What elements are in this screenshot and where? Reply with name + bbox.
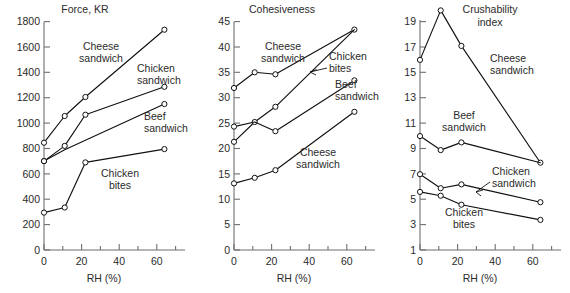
series-label-chicken-bites: Chicken bites <box>101 167 139 191</box>
y-tick-label: 19 <box>404 15 416 27</box>
y-tick-labels: 0 5 10 15 20 25 30 35 40 45 <box>218 15 230 255</box>
series-label-line: Chicken <box>137 62 175 74</box>
y-tick-label: 800 <box>22 142 40 154</box>
y-tick-label: 17 <box>404 41 416 53</box>
x-axis-title: RH (%) <box>87 272 121 284</box>
x-ticks <box>234 244 366 250</box>
x-tick-labels: 0 20 40 60 <box>41 255 163 267</box>
x-ticks <box>44 244 176 250</box>
y-tick-label: 10 <box>218 193 230 205</box>
series-label-line: bites <box>329 62 351 74</box>
x-tick-label: 60 <box>527 255 539 267</box>
series-label-line: bites <box>109 179 131 191</box>
y-tick-label: 600 <box>22 168 40 180</box>
series-label-chicken-sandwich: Chicken sandwich <box>137 62 181 86</box>
series-label-line: Cheese <box>300 146 336 158</box>
y-tick-label: 45 <box>218 15 230 27</box>
series-label-line: Cheese <box>490 52 526 64</box>
series-label-cheese-sandwich-upper: Cheese sandwich <box>261 40 305 64</box>
series-label-line: Chicken <box>101 167 139 179</box>
y-tick-label: 35 <box>218 66 230 78</box>
x-tick-label: 0 <box>417 255 423 267</box>
y-tick-label: 400 <box>22 193 40 205</box>
x-tick-labels: 0 20 40 60 <box>231 255 353 267</box>
series-label-line: sandwich <box>137 74 181 86</box>
series-label-line: Chicken <box>445 206 483 218</box>
series-label-line: sandwich <box>442 121 486 133</box>
y-tick-label: 5 <box>224 218 230 230</box>
y-tick-label: 30 <box>218 91 230 103</box>
x-tick-label: 20 <box>452 255 464 267</box>
series-label-cheese-sandwich: Cheese sandwich <box>79 40 123 64</box>
y-tick-label: 200 <box>22 218 40 230</box>
series-label-line: Beef <box>335 78 357 90</box>
x-axis-title: RH (%) <box>463 272 497 284</box>
chart-title-force: Force, KR <box>61 3 109 15</box>
series-cheese-sandwich <box>417 8 543 165</box>
y-tick-label: 1400 <box>17 66 41 78</box>
y-tick-label: 5 <box>410 193 416 205</box>
series-label-chicken-bites: Chicken bites <box>445 206 483 230</box>
series-label-line: sandwich <box>335 90 379 102</box>
x-tick-label: 40 <box>489 255 501 267</box>
figure-three-panel-line-charts: Force, KR 0 200 400 600 <box>0 0 570 293</box>
y-tick-label: 7 <box>410 168 416 180</box>
series-label-line: Beef <box>144 110 166 122</box>
series-label-chicken-bites: Chicken bites <box>310 50 367 75</box>
chart-title-cohesiveness: Cohesiveness <box>249 3 315 15</box>
y-tick-label: 11 <box>405 117 416 129</box>
x-ticks <box>420 244 552 250</box>
series-label-line: sandwich <box>296 158 340 170</box>
series-beef-sandwich <box>417 134 540 163</box>
chart-crushability: Crushability index 1 3 5 7 <box>380 0 570 293</box>
series-label-chicken-sandwich: Chicken sandwich <box>476 165 536 196</box>
y-tick-label: 15 <box>404 66 416 78</box>
y-tick-label: 1800 <box>17 15 41 27</box>
series-label-cheese-sandwich: Cheese sandwich <box>490 52 534 76</box>
series-label-line: Chicken <box>492 165 530 177</box>
series-label-line: Chicken <box>329 50 367 62</box>
series-chicken-bites <box>41 147 167 216</box>
series-label-line: sandwich <box>261 52 305 64</box>
y-tick-label: 0 <box>34 244 40 256</box>
y-tick-label: 3 <box>410 218 416 230</box>
series-label-line: sandwich <box>492 177 536 189</box>
series-label-beef-sandwich: Beef sandwich <box>144 110 188 134</box>
x-axis-title: RH (%) <box>277 272 311 284</box>
y-tick-label: 13 <box>404 91 416 103</box>
y-tick-labels: 0 200 400 600 800 1000 1200 1400 1600 18… <box>17 15 41 255</box>
x-tick-label: 0 <box>231 255 237 267</box>
x-tick-label: 40 <box>303 255 315 267</box>
chart-title-crushability-line1: Crushability <box>463 3 519 15</box>
chart-force: Force, KR 0 200 400 600 <box>0 0 190 293</box>
y-tick-label: 1000 <box>17 117 41 129</box>
chart-cohesiveness: Cohesiveness 0 5 10 15 20 <box>190 0 380 293</box>
panel-crushability: Crushability index 1 3 5 7 <box>380 0 570 293</box>
series-cheese-sandwich-lower <box>231 109 357 186</box>
y-tick-label: 40 <box>218 41 230 53</box>
y-tick-label: 15 <box>218 168 230 180</box>
series-label-line: sandwich <box>144 122 188 134</box>
series-label-line: sandwich <box>490 64 534 76</box>
series-label-line: sandwich <box>79 52 123 64</box>
x-tick-labels: 0 20 40 60 <box>417 255 539 267</box>
series-label-line: Cheese <box>265 40 301 52</box>
y-tick-label: 20 <box>218 142 230 154</box>
y-tick-label: 25 <box>218 117 230 129</box>
series-label-line: Beef <box>453 109 475 121</box>
series-label-line: Cheese <box>83 40 119 52</box>
x-tick-label: 20 <box>266 255 278 267</box>
series-label-line: bites <box>453 218 475 230</box>
panel-force: Force, KR 0 200 400 600 <box>0 0 190 293</box>
y-tick-label: 9 <box>410 142 416 154</box>
y-tick-label: 0 <box>224 244 230 256</box>
y-tick-label: 1600 <box>17 41 41 53</box>
y-tick-labels: 1 3 5 7 9 11 13 15 17 19 <box>404 15 416 255</box>
series-label-beef-sandwich: Beef sandwich <box>442 109 486 133</box>
y-tick-label: 1200 <box>17 91 41 103</box>
x-tick-label: 60 <box>151 255 163 267</box>
x-tick-label: 20 <box>76 255 88 267</box>
chart-title-crushability-line2: index <box>477 16 503 28</box>
y-tick-label: 1 <box>410 244 416 256</box>
y-ticks <box>234 22 240 250</box>
